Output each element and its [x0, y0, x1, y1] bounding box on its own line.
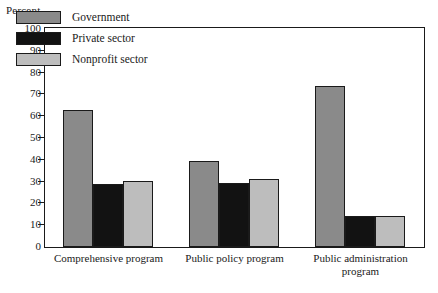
y-axis-tick-label: 10 — [30, 219, 41, 230]
x-axis-category-label-line: Comprehensive program — [54, 252, 163, 264]
y-axis-tick-label: 20 — [30, 197, 41, 208]
legend-item-label: Government — [72, 12, 129, 24]
chart-legend: GovernmentPrivate sectorNonprofit sector — [16, 8, 148, 71]
bar — [93, 184, 123, 247]
y-axis-tick-label: 60 — [30, 110, 41, 121]
y-axis-tick-label: 30 — [30, 175, 41, 186]
x-axis-category-label-line: Public policy program — [185, 252, 283, 264]
legend-swatch-icon — [16, 11, 61, 24]
legend-item: Nonprofit sector — [16, 50, 148, 69]
y-axis-tick-label: 50 — [30, 132, 41, 143]
y-axis-tick-label: 70 — [30, 88, 41, 99]
legend-item-label: Private sector — [72, 33, 135, 45]
legend-item: Government — [16, 8, 148, 27]
bar — [189, 161, 219, 247]
bar — [315, 86, 345, 247]
bar — [249, 179, 279, 247]
y-axis-tick-label: 0 — [36, 241, 42, 252]
bar — [63, 110, 93, 247]
x-axis-category-label-line: Public administration — [313, 252, 407, 264]
legend-item-label: Nonprofit sector — [72, 54, 148, 66]
legend-item: Private sector — [16, 29, 148, 48]
bar — [123, 181, 153, 247]
bar-chart: Percent 0102030405060708090100 Governmen… — [0, 0, 438, 293]
legend-swatch-icon — [16, 53, 61, 66]
y-axis-tick-label: 40 — [30, 153, 41, 164]
bar — [345, 216, 375, 247]
bar — [375, 216, 405, 247]
x-axis-category-label: Public administrationprogram — [286, 252, 436, 278]
x-axis-category-label-line: program — [286, 265, 436, 278]
bar — [219, 183, 249, 247]
legend-swatch-icon — [16, 32, 61, 45]
